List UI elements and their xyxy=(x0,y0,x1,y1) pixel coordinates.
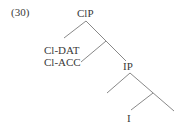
branch-to-cl-acc xyxy=(81,41,106,62)
branch-clp-left xyxy=(64,21,86,38)
branch-to-i xyxy=(131,93,153,110)
branch-ip-left xyxy=(107,73,130,93)
tree-branches xyxy=(0,0,184,127)
